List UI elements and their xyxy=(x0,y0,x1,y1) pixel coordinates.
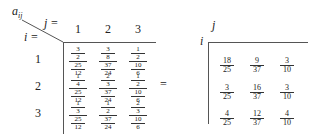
fraction: 425 xyxy=(216,110,238,127)
row-header: 3 xyxy=(28,106,48,121)
row-header: 1 xyxy=(28,52,48,67)
header-rule xyxy=(208,42,308,43)
row-rule xyxy=(208,42,209,124)
fraction: 1637 xyxy=(246,84,268,101)
fraction: 410 xyxy=(276,110,298,127)
fraction: 310 xyxy=(276,84,298,101)
fraction: 1825 xyxy=(216,57,238,74)
header-rule xyxy=(63,42,156,43)
compound-fraction: 123724 xyxy=(98,100,118,131)
fraction: 325 xyxy=(216,84,238,101)
fraction: 937 xyxy=(246,57,268,74)
equals-sign: = xyxy=(160,77,167,92)
row-rule xyxy=(63,42,64,134)
fraction: 310 xyxy=(276,57,298,74)
col-header: 1 xyxy=(68,22,88,37)
col-header: 2 xyxy=(98,22,118,37)
fraction: 1237 xyxy=(246,110,268,127)
compound-fraction: 23106 xyxy=(128,100,148,131)
compound-fraction: 132512 xyxy=(68,100,88,131)
row-header: 2 xyxy=(28,79,48,94)
col-header: 3 xyxy=(128,22,148,37)
